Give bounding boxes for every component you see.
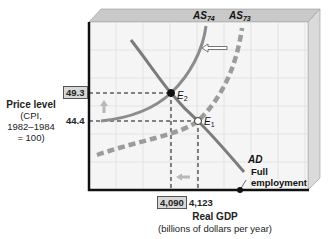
full-employment-point — [237, 187, 243, 193]
x-axis-sub: (billions of dollars per year) — [150, 223, 280, 235]
y-axis-sub-1: (CPI, — [2, 110, 60, 121]
label-full-employment-1: Full — [251, 166, 268, 177]
y-axis-sub-3: = 100) — [2, 132, 60, 143]
y-tick-44-4: 44.4 — [66, 115, 85, 126]
y-axis-sub-2: 1982–1984 — [2, 121, 60, 132]
point-e1 — [195, 118, 202, 125]
y-axis-label: Price level (CPI, 1982–1984 = 100) — [2, 99, 60, 143]
label-full-employment-2: employment — [251, 177, 308, 188]
label-ad: AD — [247, 154, 262, 165]
x-axis-label: Real GDP (billions of dollars per year) — [150, 211, 280, 235]
x-tick-4090: 4,090 — [157, 196, 187, 209]
y-axis-title: Price level — [2, 99, 60, 110]
y-tick-49-3: 49.3 — [63, 86, 88, 99]
point-e2 — [168, 90, 175, 97]
x-tick-4123: 4,123 — [189, 197, 213, 208]
x-axis-title: Real GDP — [150, 211, 280, 223]
panel-right-side — [308, 9, 320, 190]
